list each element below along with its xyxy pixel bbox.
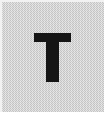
tile-edge-top: [0, 0, 106, 2]
letter-t-crossbar: [34, 33, 71, 42]
tile-edge-left: [0, 0, 2, 114]
tile-edge-right: [104, 0, 106, 114]
letter-tile[interactable]: T: [2, 2, 104, 112]
letter-t-glyph: T: [34, 33, 71, 82]
icon-canvas: T: [0, 0, 106, 114]
tile-edge-bottom: [0, 112, 106, 114]
letter-t-stem: [46, 42, 59, 82]
